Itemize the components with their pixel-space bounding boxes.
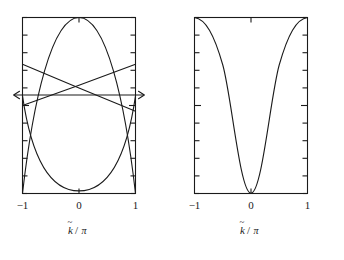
left-curve-lower-valley bbox=[23, 96, 136, 191]
left-panel-axis-label: ~ k / π bbox=[68, 217, 88, 236]
right-axis-k: k bbox=[240, 224, 246, 236]
figure-container: −1 0 1 ~ k / π bbox=[0, 0, 344, 260]
left-axis-k: k bbox=[68, 224, 74, 236]
right-axis-pi: π bbox=[253, 225, 259, 236]
right-curve-cosine-valley bbox=[195, 18, 308, 194]
right-xtick-label-minus-one: −1 bbox=[189, 199, 201, 211]
left-panel-double-arrow bbox=[14, 91, 145, 98]
right-xtick-label-one: 1 bbox=[305, 199, 311, 211]
right-panel-y-ticks-right bbox=[301, 18, 308, 194]
left-panel: −1 0 1 ~ k / π bbox=[14, 18, 145, 237]
left-axis-pi: π bbox=[81, 225, 87, 236]
right-xtick-label-zero: 0 bbox=[248, 199, 254, 211]
left-xtick-label-zero: 0 bbox=[76, 199, 82, 211]
left-xtick-label-one: 1 bbox=[133, 199, 139, 211]
right-panel-axis-label: ~ k / π bbox=[240, 217, 260, 236]
left-curve-upper-dome bbox=[23, 18, 136, 194]
right-panel-frame bbox=[195, 18, 308, 194]
right-panel-y-ticks bbox=[195, 18, 202, 194]
right-axis-slash: / bbox=[247, 224, 251, 236]
left-xtick-label-minus-one: −1 bbox=[17, 199, 29, 211]
right-panel: −1 0 1 ~ k / π bbox=[189, 18, 311, 237]
left-panel-frame bbox=[23, 18, 136, 194]
figure-svg: −1 0 1 ~ k / π bbox=[0, 0, 344, 260]
left-curve-falling-line bbox=[23, 64, 136, 111]
left-curve-rising-line bbox=[23, 64, 136, 105]
left-axis-slash: / bbox=[75, 224, 79, 236]
